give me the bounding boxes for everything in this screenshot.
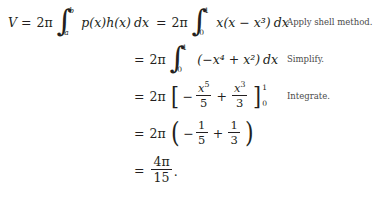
annotation-apply-shell-method: Apply shell method.: [287, 4, 373, 40]
denominator: 15: [152, 170, 172, 184]
equals-sign: =: [134, 126, 144, 141]
second-pi-symbol: π: [180, 15, 188, 30]
volume-variable: V: [8, 15, 17, 30]
coefficient: 2: [149, 126, 157, 141]
integrand-text: x(x − x³): [216, 15, 270, 30]
math-derivation: V = 2π ∫ b a p(x)h(x) dx = 2π ∫ 1 0: [0, 0, 375, 197]
second-coefficient: 2: [172, 15, 180, 30]
term-1-sign: −: [182, 89, 192, 104]
equation-line-4: = 2π ( − 1 5 + 1 3 ): [0, 115, 375, 151]
second-equals-sign: =: [156, 15, 166, 30]
pi-symbol: π: [157, 126, 165, 141]
integral-lower-limit: 0: [199, 28, 204, 37]
equation-line-1-body: V = 2π ∫ b a p(x)h(x) dx = 2π ∫ 1 0: [8, 4, 289, 40]
equation-line-3: = 2π [ − x5 5 + x3 3 ] 1 0: [0, 78, 375, 114]
integral-upper-limit: 1: [204, 6, 209, 15]
coefficient: 2: [149, 89, 157, 104]
pi-symbol: π: [157, 89, 165, 104]
parenthesized-sum: ( − 1 5 + 1 3 ): [166, 120, 255, 146]
denominator: 3: [234, 96, 245, 109]
integral-lower-limit: 0: [177, 65, 182, 74]
equation-line-4-body: = 2π ( − 1 5 + 1 3 ): [130, 115, 255, 151]
antiderivative-term-1: x5 5: [196, 82, 211, 108]
antiderivative-term-2: x3 3: [232, 82, 247, 108]
equation-line-2-body: = 2π ∫ 1 0 (−x⁴ + x²) dx: [130, 41, 278, 77]
evaluation-lower-limit: 0: [262, 99, 267, 108]
evaluation-limits: 1 0: [262, 81, 270, 111]
pi-symbol: π: [157, 52, 165, 67]
numerator: 1: [196, 119, 207, 132]
pi-symbol: π: [44, 15, 52, 30]
numerator-exponent: 3: [240, 81, 245, 90]
integral-limits: b a: [72, 5, 79, 39]
evaluation-bracket: ] 1 0: [250, 81, 270, 111]
integrand-ph: p(x)h(x): [81, 15, 131, 30]
sentence-terminator: .: [174, 164, 178, 188]
term-1-sign: −: [183, 126, 193, 141]
annotation-simplify: Simplify.: [287, 41, 324, 77]
integral-sign-ab: ∫ b a: [57, 5, 80, 39]
equation-line-5: = 4π 15 .: [0, 152, 375, 188]
numerator: x5: [196, 82, 211, 95]
equals-sign: =: [21, 15, 31, 30]
numeric-term-2: 1 3: [228, 119, 240, 145]
integral-upper-limit: b: [69, 6, 74, 15]
integral-limits: 1 0: [185, 42, 192, 76]
integral-lower-limit: a: [64, 28, 68, 37]
integrand-expanded: x(x − x³): [216, 15, 270, 30]
integrand-polynomial: (−x⁴ + x²): [197, 52, 260, 67]
numeric-term-1: 1 5: [196, 119, 208, 145]
differential-dx: dx: [134, 15, 149, 30]
term-2-sign: +: [216, 89, 226, 104]
equation-line-1: V = 2π ∫ b a p(x)h(x) dx = 2π ∫ 1 0: [0, 4, 375, 40]
differential-dx: dx: [263, 52, 278, 67]
annotation-integrate: Integrate.: [287, 78, 330, 114]
integral-limits: 1 0: [207, 5, 214, 39]
equation-line-2: = 2π ∫ 1 0 (−x⁴ + x²) dx Simplify.: [0, 41, 375, 77]
numerator: 4π: [151, 155, 171, 169]
term-2-sign: +: [213, 126, 223, 141]
integral-sign-01: ∫ 1 0: [192, 5, 215, 39]
evaluation-upper-limit: 1: [262, 83, 267, 92]
equals-sign: =: [134, 89, 144, 104]
coefficient: 2: [149, 52, 157, 67]
denominator: 5: [196, 133, 207, 146]
integral-upper-limit: 1: [182, 43, 187, 52]
numerator-exponent: 5: [204, 81, 209, 90]
final-result-fraction: 4π 15: [151, 155, 171, 183]
equals-sign: =: [134, 52, 144, 67]
coefficient: 2: [37, 15, 45, 30]
denominator: 3: [229, 133, 240, 146]
equals-sign: =: [134, 163, 144, 178]
integral-sign-01: ∫ 1 0: [170, 42, 193, 76]
numerator: 1: [229, 119, 240, 132]
numerator-pi: π: [161, 154, 169, 169]
equation-line-3-body: = 2π [ − x5 5 + x3 3 ] 1 0: [130, 78, 270, 114]
numerator: x3: [232, 82, 247, 95]
equation-line-5-body: = 4π 15 .: [130, 152, 178, 188]
denominator: 5: [198, 96, 209, 109]
